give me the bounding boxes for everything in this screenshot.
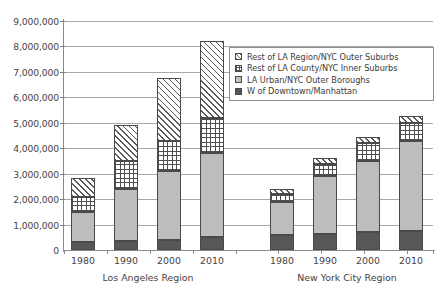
bar-segment-urban [114,189,138,241]
chart-legend: Rest of LA Region/NYC Outer Suburbs Rest… [229,47,434,101]
group-label-new-york: New York City Region [297,272,396,283]
y-axis-tick [60,72,65,73]
legend-item-downtown-manhattan[interactable]: W of Downtown/Manhattan [234,86,429,98]
y-axis-tick [60,97,65,98]
bar-segment-inner-suburbs [313,164,337,177]
y-axis-tick [60,174,65,175]
bar-segment-outer-suburbs [157,78,181,140]
x-axis-label-la-1990: 1990 [114,255,138,266]
scan-artifact-dot [209,146,210,147]
y-axis-tick-label: 7,000,000 [0,66,59,77]
x-axis-label-nyc-2010: 2010 [399,255,423,266]
bar-la-2010 [200,41,224,250]
x-axis-label-nyc-1980: 1980 [270,255,294,266]
y-axis-tick-label: 9,000,000 [0,16,59,27]
x-axis-tick [193,250,194,254]
bar-segment-inner-suburbs [114,161,138,189]
legend-item-urban-boroughs[interactable]: LA Urban/NYC Outer Boroughs [234,74,429,86]
bar-segment-downtown [114,241,138,250]
x-axis-tick [64,250,65,254]
x-axis-label-la-1980: 1980 [71,255,95,266]
x-axis-label-la-2000: 2000 [157,255,181,266]
bar-nyc-1990 [313,158,337,250]
legend-item-inner-suburbs[interactable]: Rest of LA County/NYC Inner Suburbs [234,63,429,75]
y-axis-tick [60,148,65,149]
legend-item-label: Rest of LA Region/NYC Outer Suburbs [247,52,398,62]
y-axis-tick-label: 0 [0,245,59,256]
bar-la-1980 [71,178,95,251]
x-axis-tick [107,250,108,254]
y-axis-tick [60,123,65,124]
x-axis-label-la-2010: 2010 [200,255,224,266]
bar-nyc-1980 [270,189,294,250]
y-axis-tick-label: 8,000,000 [0,41,59,52]
x-axis-tick [236,250,237,254]
group-label-los-angeles: Los Angeles Region [102,272,193,283]
bar-segment-inner-suburbs [399,123,423,141]
x-axis-tick [150,250,151,254]
x-axis-tick [433,250,434,254]
y-axis-tick [60,199,65,200]
solid-gray-icon [235,76,242,83]
y-axis-tick-label: 1,000,000 [0,219,59,230]
bar-segment-urban [399,141,423,231]
crosshatch-grid-icon [235,65,242,72]
x-axis-tick [364,250,365,254]
bar-segment-outer-suburbs [71,178,95,197]
bar-segment-inner-suburbs [200,118,224,154]
x-axis-line [63,250,435,251]
legend-item-label: LA Urban/NYC Outer Boroughs [247,75,370,85]
bar-segment-urban [313,176,337,233]
bar-segment-downtown [200,237,224,250]
bar-segment-downtown [356,232,380,250]
bar-la-2000 [157,78,181,250]
bar-segment-outer-suburbs [200,41,224,117]
x-axis-tick [321,250,322,254]
bar-segment-urban [200,153,224,237]
bar-segment-urban [71,212,95,243]
legend-item-label: Rest of LA County/NYC Inner Suburbs [247,63,397,73]
bar-segment-downtown [313,234,337,251]
bar-segment-downtown [270,235,294,250]
x-axis-tick [278,250,279,254]
bar-la-1990 [114,125,138,250]
y-axis-tick [60,225,65,226]
y-axis-tick-label: 4,000,000 [0,143,59,154]
gridline [64,21,433,22]
legend-item-label: W of Downtown/Manhattan [247,86,357,96]
diagonal-hatch-icon [235,53,242,60]
bar-segment-urban [157,171,181,240]
bar-segment-inner-suburbs [157,141,181,172]
legend-item-outer-suburbs[interactable]: Rest of LA Region/NYC Outer Suburbs [234,51,429,63]
bar-nyc-2010 [399,116,423,250]
y-axis-tick-label: 2,000,000 [0,194,59,205]
gridline [64,123,433,124]
y-axis-tick [60,21,65,22]
bar-segment-inner-suburbs [270,194,294,202]
x-axis-label-nyc-2000: 2000 [356,255,380,266]
y-axis-tick-label: 5,000,000 [0,117,59,128]
bar-nyc-2000 [356,137,380,250]
stacked-bar-chart: 9,000,000 8,000,000 7,000,000 6,000,000 … [0,0,443,296]
bar-segment-downtown [399,231,423,250]
bar-segment-downtown [71,242,95,250]
y-axis-tick [60,46,65,47]
bar-segment-urban [356,161,380,232]
bar-segment-outer-suburbs [114,125,138,161]
bar-segment-inner-suburbs [71,197,95,212]
x-axis-label-nyc-1990: 1990 [313,255,337,266]
x-axis-tick [407,250,408,254]
y-axis-tick-label: 3,000,000 [0,168,59,179]
bar-segment-downtown [157,240,181,250]
y-axis-tick-label: 6,000,000 [0,92,59,103]
bar-segment-inner-suburbs [356,143,380,161]
bar-segment-urban [270,202,294,235]
solid-dark-icon [235,88,242,95]
